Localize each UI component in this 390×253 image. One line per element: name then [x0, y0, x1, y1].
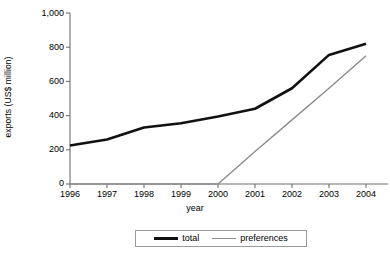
x-axis-title: year [0, 203, 390, 213]
x-tick-1997: 1997 [87, 189, 127, 199]
x-tick-2003: 2003 [309, 189, 349, 199]
line-chart: exports (US$ million) 1,000 800 600 400 … [0, 0, 390, 253]
x-tick-2001: 2001 [235, 189, 275, 199]
legend-item-total: total [154, 234, 199, 243]
axis-lines [66, 13, 388, 188]
plot-area [0, 0, 390, 253]
x-tick-1998: 1998 [124, 189, 164, 199]
series-line-preferences [70, 56, 366, 184]
legend-label-total: total [182, 234, 199, 243]
legend-line-swatch-preferences-icon [212, 238, 236, 239]
x-tick-2004: 2004 [346, 189, 386, 199]
legend-label-preferences: preferences [240, 234, 288, 243]
y-axis-ticks [66, 13, 70, 184]
legend-item-preferences: preferences [212, 234, 288, 243]
x-tick-2000: 2000 [198, 189, 238, 199]
x-tick-1999: 1999 [161, 189, 201, 199]
legend-line-swatch-total-icon [154, 237, 178, 240]
x-tick-1996: 1996 [50, 189, 90, 199]
chart-legend: total preferences [135, 230, 307, 247]
x-tick-2002: 2002 [272, 189, 312, 199]
